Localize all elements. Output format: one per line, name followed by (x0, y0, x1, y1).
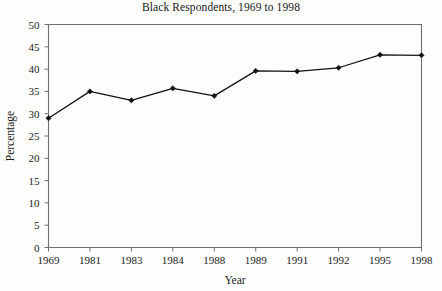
y-axis-tick-label: 50 (29, 19, 41, 31)
x-axis-title: Year (224, 274, 245, 286)
data-point-marker (419, 53, 424, 58)
x-axis-tick-label: 1981 (79, 254, 101, 266)
y-axis-tick-marks (45, 25, 49, 248)
x-axis-tick-label: 1984 (162, 254, 185, 266)
y-axis-tick-label: 30 (29, 108, 41, 120)
data-point-marker (129, 98, 134, 103)
y-axis-tick-label: 5 (34, 219, 40, 231)
y-axis-tick-label: 45 (29, 41, 41, 53)
y-axis-tick-label: 35 (29, 85, 41, 97)
line-chart-plot: 05101520253035404550 1969198119831984198… (0, 0, 442, 291)
data-point-markers (46, 52, 424, 121)
y-axis-title: Percentage (4, 111, 17, 161)
x-axis-tick-label: 1988 (203, 254, 226, 266)
data-point-marker (295, 69, 300, 74)
y-axis-tick-label: 0 (34, 242, 40, 254)
y-axis-tick-label: 40 (29, 63, 41, 75)
y-axis-tick-label: 10 (29, 197, 41, 209)
y-axis-tick-labels: 05101520253035404550 (29, 19, 41, 254)
chart-figure: Black Respondents, 1969 to 1998 05101520… (0, 0, 442, 291)
y-axis-tick-label: 15 (29, 175, 41, 187)
x-axis-tick-label: 1998 (411, 254, 434, 266)
plot-frame (49, 25, 422, 248)
data-point-marker (377, 52, 382, 57)
x-axis-tick-label: 1969 (38, 254, 61, 266)
x-axis-tick-label: 1995 (369, 254, 392, 266)
x-axis-tick-label: 1989 (245, 254, 268, 266)
data-series-line (49, 55, 422, 118)
x-axis-tick-label: 1991 (286, 254, 308, 266)
x-axis-tick-marks (49, 248, 422, 252)
x-axis-tick-label: 1983 (120, 254, 143, 266)
x-axis-tick-label: 1992 (328, 254, 350, 266)
data-point-marker (336, 65, 341, 70)
y-axis-tick-label: 25 (29, 130, 41, 142)
y-axis-tick-label: 20 (29, 152, 41, 164)
data-point-marker (170, 86, 175, 91)
x-axis-tick-labels: 1969198119831984198819891991199219951998 (38, 254, 434, 266)
